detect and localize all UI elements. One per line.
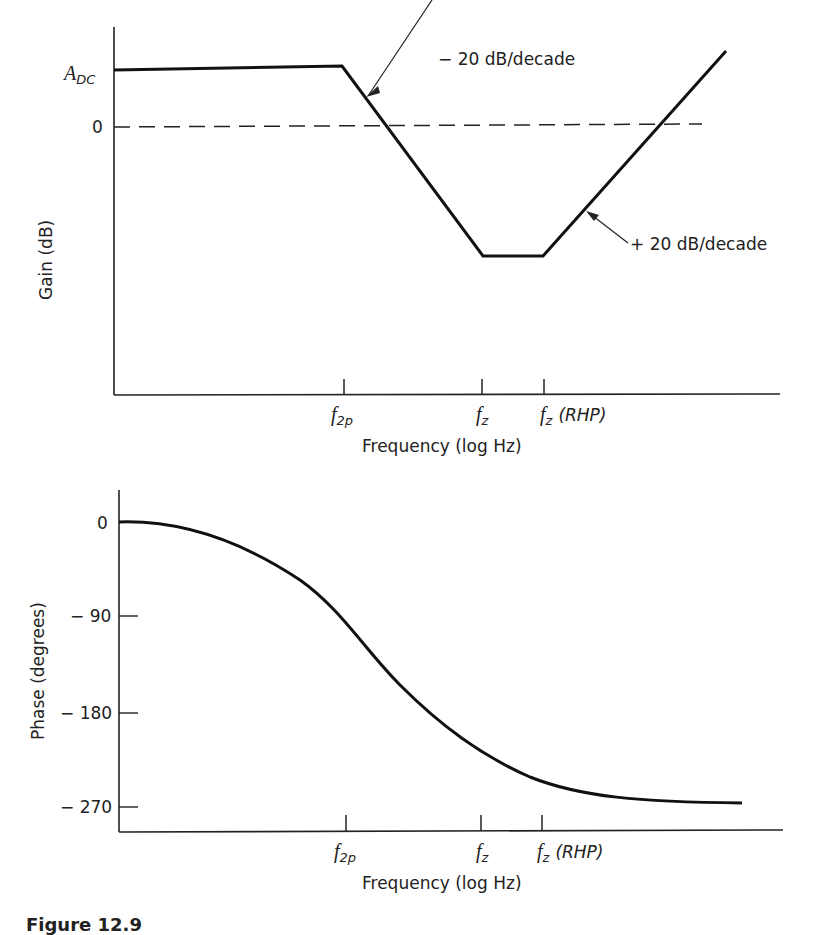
gain-x-axis-label: Frequency (log Hz) bbox=[362, 436, 522, 456]
phase-minus-270-label: − 270 bbox=[60, 797, 112, 817]
phase-curve bbox=[119, 522, 742, 803]
phase-f2p-label: f2p bbox=[334, 840, 356, 865]
phase-y-axis-label: Phase (degrees) bbox=[28, 602, 48, 740]
gain-y-axis-label: Gain (dB) bbox=[36, 220, 56, 300]
gain-fz-rhp-label: fz(RHP) bbox=[540, 403, 607, 428]
gain-zero-label: 0 bbox=[92, 117, 103, 137]
phase-zero-label: 0 bbox=[97, 513, 108, 533]
arrow-neg-slope-line bbox=[368, 0, 432, 96]
phase-x-axis bbox=[119, 830, 783, 832]
phase-minus-90-label: − 90 bbox=[70, 606, 111, 626]
phase-x-axis-label: Frequency (log Hz) bbox=[362, 873, 522, 893]
phase-minus-180-label: − 180 bbox=[60, 703, 112, 723]
adc-label: ADC bbox=[62, 62, 96, 87]
gain-curve bbox=[114, 51, 726, 256]
phase-plot: 0 − 90 − 180 − 270 Phase (degrees) f2p f… bbox=[28, 490, 783, 893]
gain-x-axis bbox=[114, 394, 780, 395]
zero-db-dashed-line bbox=[114, 124, 702, 127]
gain-f2p-label: f2p bbox=[331, 403, 353, 428]
phase-fz-label: fz bbox=[476, 840, 490, 865]
pos-slope-annotation: + 20 dB/decade bbox=[630, 234, 767, 254]
gain-fz-label: fz bbox=[476, 403, 490, 428]
figure-caption: Figure 12.9 bbox=[26, 914, 142, 935]
phase-fz-rhp-label: fz(RHP) bbox=[537, 840, 604, 865]
gain-plot: ADC 0 Gain (dB) − 20 dB/decade + 20 dB/d… bbox=[36, 0, 780, 456]
neg-slope-annotation: − 20 dB/decade bbox=[438, 49, 575, 69]
